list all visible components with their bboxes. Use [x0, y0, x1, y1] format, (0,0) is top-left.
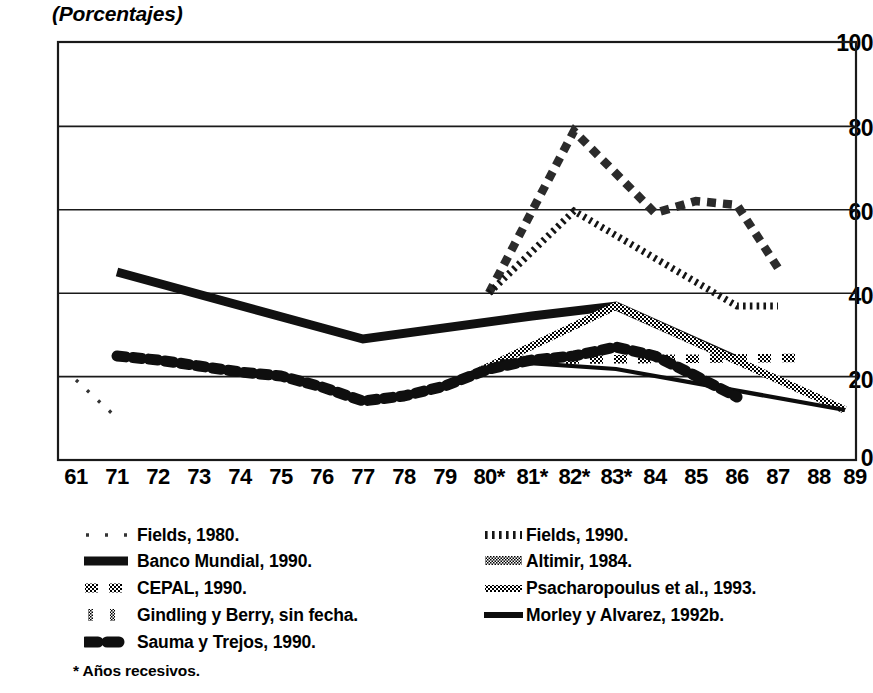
- legend-key-fine-dotted-icon: [484, 527, 524, 543]
- gridlines: [58, 126, 856, 376]
- legend-label-cepal-1990: CEPAL, 1990.: [137, 578, 247, 599]
- series-fields-1980: [76, 380, 117, 418]
- legend-item-sauma-trejos-1990: Sauma y Trejos, 1990.: [84, 631, 316, 653]
- legend-item-psacharopoulus-1993: Psacharopoulus et al., 1993.: [484, 577, 756, 599]
- legend-label-sauma-trejos-1990: Sauma y Trejos, 1990.: [137, 632, 316, 653]
- legend-item-fields-1990: Fields, 1990.: [484, 524, 628, 546]
- legend-item-altimir-1984: Altimir, 1984.: [484, 550, 632, 572]
- legend-label-fields-1980: Fields, 1980.: [137, 525, 239, 546]
- legend-key-thick-solid-black-icon: [84, 553, 130, 569]
- legend-label-gindling-berry: Gindling y Berry, sin fecha.: [137, 605, 358, 626]
- legend-key-thin-solid-black-icon: [484, 607, 524, 623]
- legend-item-fields-1980: Fields, 1980.: [84, 524, 239, 546]
- legend-key-bold-dots-icon: [84, 634, 130, 650]
- legend-key-dotted-small-icon: [84, 527, 130, 543]
- legend-key-gray-checker-icon: [484, 580, 524, 596]
- series-gindling-berry: [489, 131, 778, 293]
- plot-area: [0, 0, 873, 500]
- series-fields-1990: [489, 211, 778, 306]
- legend-key-block-dash-icon: [84, 607, 130, 623]
- legend-label-altimir-1984: Altimir, 1984.: [526, 551, 632, 572]
- legend-label-fields-1990: Fields, 1990.: [526, 525, 628, 546]
- legend-item-morley-alvarez-1992b: Morley y Alvarez, 1992b.: [484, 604, 724, 626]
- legend-key-gray-thick-icon: [484, 553, 524, 569]
- chart-figure: (Porcentajes) 100 80 60 40 20 0 61 71 72…: [0, 0, 873, 693]
- legend-item-cepal-1990: CEPAL, 1990.: [84, 577, 247, 599]
- legend-key-checker-dash-icon: [84, 580, 130, 596]
- legend-label-psacharopoulus-1993: Psacharopoulus et al., 1993.: [526, 578, 756, 599]
- legend-label-banco-mundial-1990: Banco Mundial, 1990.: [137, 551, 312, 572]
- legend-item-banco-mundial-1990: Banco Mundial, 1990.: [84, 550, 312, 572]
- legend-item-gindling-berry: Gindling y Berry, sin fecha.: [84, 604, 358, 626]
- legend-label-morley-alvarez-1992b: Morley y Alvarez, 1992b.: [526, 605, 724, 626]
- footnote-recessive-years: * Años recesivos.: [73, 662, 200, 680]
